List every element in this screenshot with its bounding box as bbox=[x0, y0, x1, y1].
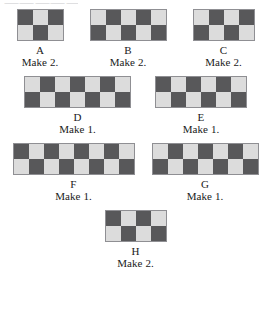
patch-cell bbox=[216, 92, 231, 107]
patch-cell bbox=[74, 159, 89, 174]
block-unit-d: D Make 1. bbox=[24, 76, 131, 136]
block-grid-row bbox=[18, 25, 63, 40]
patch-cell bbox=[106, 10, 121, 25]
block-grid-row bbox=[194, 25, 254, 40]
block-label: H bbox=[131, 245, 139, 257]
patch-cell bbox=[228, 159, 243, 174]
patch-cell bbox=[85, 77, 100, 92]
patch-cell bbox=[194, 10, 209, 25]
block-label: B bbox=[124, 44, 132, 56]
block-label: C bbox=[220, 44, 228, 56]
patch-cell bbox=[243, 144, 258, 159]
block-row-abc: A Make 2. B bbox=[0, 9, 271, 69]
patch-cell bbox=[186, 77, 201, 92]
block-grid-row bbox=[153, 144, 258, 159]
block-label: E bbox=[198, 111, 205, 123]
patch-cell bbox=[25, 77, 40, 92]
block-grid-row bbox=[106, 226, 166, 241]
patch-cell bbox=[136, 226, 151, 241]
patch-cell bbox=[136, 211, 151, 226]
block-grid-d bbox=[24, 76, 131, 108]
patch-cell bbox=[239, 10, 254, 25]
block-grid-row bbox=[14, 144, 134, 159]
block-grid-row bbox=[194, 10, 254, 25]
patch-cell bbox=[231, 77, 246, 92]
block-unit-a: A Make 2. bbox=[17, 9, 64, 69]
patch-cell bbox=[70, 92, 85, 107]
block-grid-row bbox=[91, 10, 166, 25]
block-label: D bbox=[73, 111, 81, 123]
patch-cell bbox=[151, 10, 166, 25]
patch-cell bbox=[201, 77, 216, 92]
patch-cell bbox=[40, 92, 55, 107]
block-grid-a bbox=[17, 9, 64, 41]
patch-cell bbox=[85, 92, 100, 107]
patch-cell bbox=[115, 92, 130, 107]
patch-cell bbox=[243, 159, 258, 174]
patch-cell bbox=[119, 159, 134, 174]
patch-cell bbox=[100, 77, 115, 92]
patch-cell bbox=[55, 77, 70, 92]
patch-cell bbox=[121, 226, 136, 241]
patch-cell bbox=[74, 144, 89, 159]
block-grid-row bbox=[156, 92, 246, 107]
block-row-de: D Make 1. bbox=[0, 76, 271, 136]
patch-cell bbox=[119, 144, 134, 159]
block-grid-row bbox=[18, 10, 63, 25]
patch-cell bbox=[59, 159, 74, 174]
patch-cell bbox=[104, 159, 119, 174]
patch-cell bbox=[213, 159, 228, 174]
patch-cell bbox=[231, 92, 246, 107]
patch-cell bbox=[151, 211, 166, 226]
patch-cell bbox=[33, 25, 48, 40]
block-make-count: Make 2. bbox=[117, 257, 154, 270]
block-label: A bbox=[36, 44, 44, 56]
block-make-count: Make 2. bbox=[205, 56, 242, 69]
patch-cell bbox=[228, 144, 243, 159]
block-grid-row bbox=[156, 77, 246, 92]
block-grid-g bbox=[152, 143, 259, 175]
patch-cell bbox=[136, 25, 151, 40]
patch-cell bbox=[156, 92, 171, 107]
patch-cell bbox=[104, 144, 119, 159]
patch-cell bbox=[89, 144, 104, 159]
block-grid-b bbox=[90, 9, 167, 41]
patch-cell bbox=[18, 10, 33, 25]
patch-cell bbox=[156, 77, 171, 92]
block-grid-row bbox=[106, 211, 166, 226]
patch-cell bbox=[198, 144, 213, 159]
patch-cell bbox=[183, 144, 198, 159]
patch-cell bbox=[91, 25, 106, 40]
block-grid-row bbox=[14, 159, 134, 174]
patch-cell bbox=[89, 159, 104, 174]
patch-cell bbox=[194, 25, 209, 40]
patch-cell bbox=[168, 144, 183, 159]
block-grid-c bbox=[193, 9, 255, 41]
patch-cell bbox=[209, 10, 224, 25]
patch-cell bbox=[153, 144, 168, 159]
patch-cell bbox=[171, 77, 186, 92]
patch-cell bbox=[216, 77, 231, 92]
block-make-count: Make 2. bbox=[22, 56, 59, 69]
patch-cell bbox=[70, 77, 85, 92]
patch-cell bbox=[153, 159, 168, 174]
block-make-count: Make 1. bbox=[55, 190, 92, 203]
patch-cell bbox=[100, 92, 115, 107]
patch-cell bbox=[29, 144, 44, 159]
block-row-h: H Make 2. bbox=[0, 210, 271, 270]
patch-cell bbox=[48, 25, 63, 40]
block-make-count: Make 1. bbox=[183, 123, 220, 136]
patch-cell bbox=[121, 25, 136, 40]
patch-cell bbox=[239, 25, 254, 40]
block-grid-row bbox=[25, 77, 130, 92]
block-grid-h bbox=[105, 210, 167, 242]
block-grid-row bbox=[25, 92, 130, 107]
patch-cell bbox=[121, 10, 136, 25]
patch-cell bbox=[209, 25, 224, 40]
patch-cell bbox=[106, 211, 121, 226]
patch-cell bbox=[40, 77, 55, 92]
block-grid-e bbox=[155, 76, 247, 108]
block-unit-h: H Make 2. bbox=[105, 210, 167, 270]
block-make-count: Make 1. bbox=[187, 190, 224, 203]
block-make-count: Make 2. bbox=[110, 56, 147, 69]
